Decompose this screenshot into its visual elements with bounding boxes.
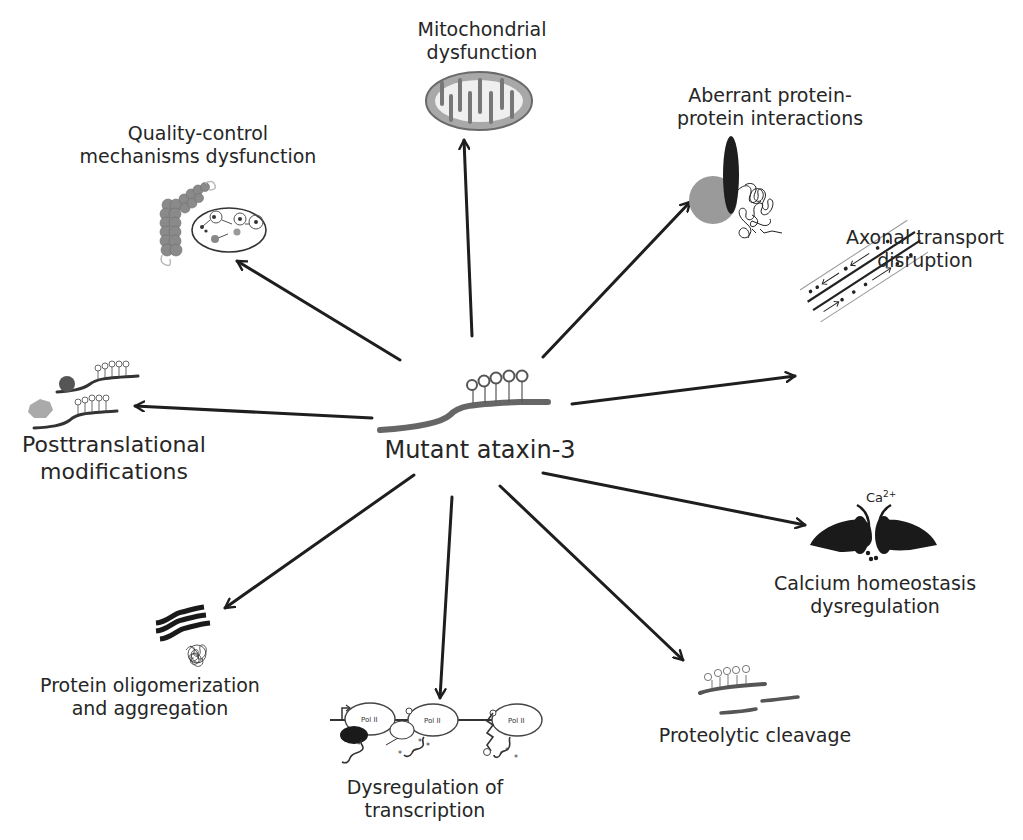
modified-protein-icon [28,361,138,428]
label-line: mechanisms dysfunction [48,145,348,168]
label-line: dysfunction [382,41,582,64]
label-line: dysregulation [770,595,980,618]
mitochondrion-icon [426,72,532,130]
arrow-to-quality-control [237,261,400,360]
label-line: modifications [14,459,214,486]
arrow-to-ptm [135,406,372,418]
svg-text:*: * [514,754,518,763]
label-line: Aberrant protein- [670,84,870,107]
label-line: Protein oligomerization [20,674,280,697]
label-line: Axonal transport [830,226,1020,249]
label-quality-control: Quality-control mechanisms dysfunction [48,122,348,168]
proteasome-autophagy-icon [160,181,266,265]
aggregate-icon [156,607,210,666]
svg-text:*: * [426,742,430,751]
arrow-to-proteolytic [500,486,683,660]
label-line: Posttranslational [14,432,214,459]
label-line: Calcium homeostasis [770,572,980,595]
arrow-to-axonal [572,376,795,404]
label-transcription: Dysregulation of transcription [330,776,520,822]
calcium-channel-icon: Ca2+ [810,489,937,561]
svg-text:*: * [505,747,509,756]
ataxin3-protein-icon [380,371,548,431]
label-line: Proteolytic cleavage [640,724,870,747]
diagram-canvas: Ca2+ Pol I [0,0,1023,840]
svg-text:*: * [398,750,402,759]
arrow-to-oligomer [225,475,414,608]
arrow-to-calcium [543,473,805,525]
pol-ii-label-2: Pol II [424,717,441,725]
cleaved-protein-icon [700,665,798,713]
label-ptm: Posttranslational modifications [14,432,214,486]
label-line: Mitochondrial [382,18,582,41]
pol-ii-label-3: Pol II [508,717,525,725]
arrow-to-mitochondrial [464,140,472,336]
calcium-ion-label: Ca2+ [866,489,896,505]
label-line: transcription [330,799,520,822]
arrow-to-aberrant-ppi [543,202,690,357]
label-oligomer: Protein oligomerization and aggregation [20,674,280,720]
label-line: protein interactions [670,107,870,130]
svg-text:*: * [418,738,422,747]
label-mitochondrial: Mitochondrial dysfunction [382,18,582,64]
label-axonal: Axonal transport disruption [830,226,1020,272]
label-proteolytic: Proteolytic cleavage [640,724,870,747]
label-line: disruption [830,249,1020,272]
protein-interaction-icon [689,136,782,238]
label-aberrant-ppi: Aberrant protein- protein interactions [670,84,870,130]
svg-text:*: * [357,741,361,750]
label-line: Quality-control [48,122,348,145]
pol-ii-label-1: Pol II [361,716,378,724]
label-calcium: Calcium homeostasis dysregulation [770,572,980,618]
rna-polymerase-icon: Pol II Pol II Pol II ****** [330,703,542,763]
label-line: and aggregation [20,697,280,720]
arrow-to-transcription [440,497,452,698]
center-label: Mutant ataxin-3 [365,436,595,465]
center-label-text: Mutant ataxin-3 [384,436,575,464]
label-line: Dysregulation of [330,776,520,799]
